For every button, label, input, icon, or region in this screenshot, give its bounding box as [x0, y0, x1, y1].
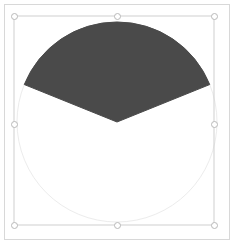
resize-handle-top-left[interactable] — [11, 13, 18, 20]
resize-handle-middle-left[interactable] — [11, 121, 18, 128]
resize-handle-bottom-left[interactable] — [11, 222, 18, 229]
pie-wedge-shape[interactable] — [24, 22, 209, 122]
resize-handle-top-right[interactable] — [211, 13, 218, 20]
resize-handle-bottom-center[interactable] — [114, 222, 121, 229]
vector-layer — [0, 0, 235, 247]
canvas-root — [0, 0, 235, 247]
resize-handle-middle-right[interactable] — [211, 121, 218, 128]
artboard[interactable] — [0, 0, 235, 247]
resize-handle-bottom-right[interactable] — [211, 222, 218, 229]
resize-handle-top-center[interactable] — [114, 13, 121, 20]
